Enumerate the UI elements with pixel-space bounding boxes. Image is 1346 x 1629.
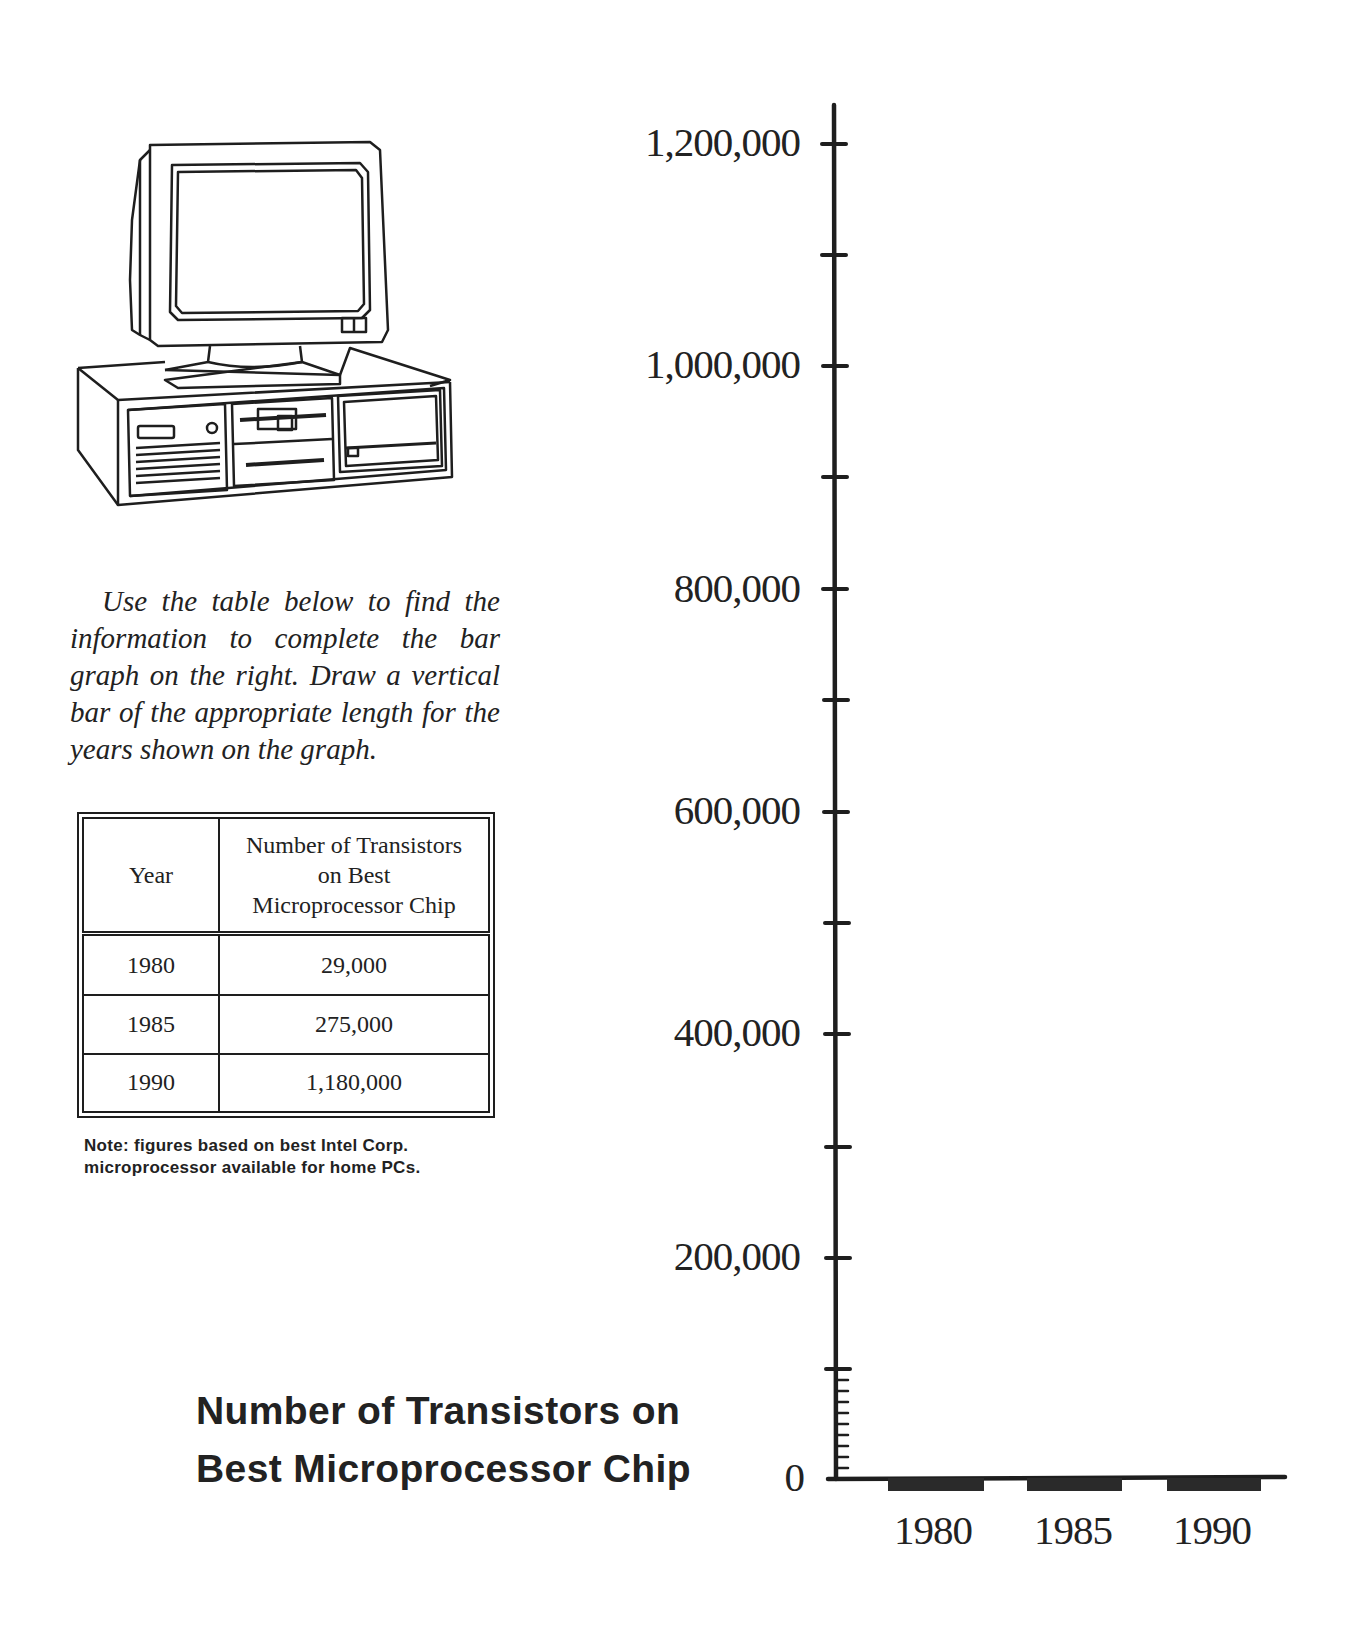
y-axis bbox=[834, 105, 836, 1479]
chart-title: Number of Transistors on Best Microproce… bbox=[196, 1382, 766, 1498]
desktop-computer-icon bbox=[70, 130, 480, 530]
value-cell: 1,180,000 bbox=[219, 1054, 489, 1113]
table-row: 1980 29,000 bbox=[83, 934, 489, 996]
value-cell: 275,000 bbox=[219, 995, 489, 1053]
x-tick-label-1985: 1985 bbox=[1008, 1505, 1138, 1555]
column-header-transistors: Number of Transistors on Best Microproce… bbox=[219, 818, 489, 934]
year-cell: 1990 bbox=[83, 1054, 219, 1113]
transistor-data-table: Year Number of Transistors on Best Micro… bbox=[77, 812, 495, 1118]
year-cell: 1985 bbox=[83, 995, 219, 1053]
value-cell: 29,000 bbox=[219, 934, 489, 996]
table-row: 1985 275,000 bbox=[83, 995, 489, 1053]
table-note: Note: figures based on best Intel Corp. … bbox=[84, 1135, 504, 1179]
y-tick-label-800000: 800,000 bbox=[560, 566, 800, 610]
table-row: 1990 1,180,000 bbox=[83, 1054, 489, 1113]
instructions-text: Use the table below to find the informat… bbox=[70, 583, 500, 768]
table-header-row: Year Number of Transistors on Best Micro… bbox=[83, 818, 489, 934]
y-tick-label-200000: 200,000 bbox=[560, 1234, 800, 1278]
year-cell: 1980 bbox=[83, 934, 219, 996]
y-tick-label-1200000: 1,200,000 bbox=[560, 120, 800, 164]
x-tick-label-1990: 1990 bbox=[1147, 1505, 1277, 1555]
column-header-year: Year bbox=[83, 818, 219, 934]
bar-slot-1985 bbox=[1027, 1478, 1122, 1491]
y-tick-label-600000: 600,000 bbox=[560, 788, 800, 832]
y-tick-label-1000000: 1,000,000 bbox=[560, 342, 800, 386]
bar-slot-1980 bbox=[888, 1478, 984, 1491]
x-axis bbox=[828, 1477, 1285, 1479]
y-tick-label-400000: 400,000 bbox=[560, 1010, 800, 1054]
bar-slot-1990 bbox=[1167, 1478, 1261, 1491]
x-tick-label-1980: 1980 bbox=[868, 1505, 998, 1555]
